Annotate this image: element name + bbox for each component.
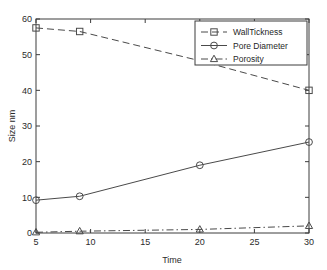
x-tick-label: 25 (249, 237, 259, 247)
legend-label: WallTickness (233, 27, 282, 37)
chart-legend: WallTicknessPore DiameterPorosity (195, 21, 307, 65)
legend-label: Porosity (233, 54, 264, 64)
y-tick-label: 30 (22, 121, 32, 131)
x-tick-label: 5 (33, 237, 38, 247)
legend-label: Pore Diameter (233, 41, 288, 51)
x-tick-label: 10 (86, 237, 96, 247)
y-axis-tick-labels: 0102030405060 (22, 14, 32, 238)
legend-entry-pore-diameter[interactable]: Pore Diameter (201, 41, 288, 51)
line-chart: 51015202530 0102030405060 Time Size nm W… (0, 0, 327, 270)
x-tick-label: 30 (304, 237, 314, 247)
x-tick-label: 15 (140, 237, 150, 247)
x-axis-title: Time (162, 255, 182, 265)
y-tick-label: 60 (22, 14, 32, 24)
y-tick-label: 50 (22, 50, 32, 60)
y-tick-label: 0 (27, 228, 32, 238)
x-axis-tick-labels: 51015202530 (33, 237, 314, 247)
chart-figure: 51015202530 0102030405060 Time Size nm W… (0, 0, 327, 270)
y-axis-title: Size nm (7, 110, 17, 143)
y-tick-label: 40 (22, 86, 32, 96)
x-tick-label: 20 (195, 237, 205, 247)
y-tick-label: 10 (22, 193, 32, 203)
y-tick-label: 20 (22, 157, 32, 167)
